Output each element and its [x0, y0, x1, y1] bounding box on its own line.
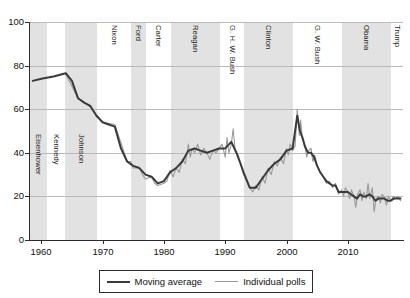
x-tick-label-2000: 2000	[267, 246, 307, 257]
x-tick-2010	[348, 240, 349, 244]
y-tick-0	[25, 240, 29, 241]
x-tick-label-1960: 1960	[21, 246, 61, 257]
legend-swatch-individual-polls	[215, 281, 238, 282]
admin-label-carter: Carter	[154, 25, 162, 47]
x-tick-1980	[164, 240, 165, 244]
legend-swatch-moving-average	[107, 281, 130, 283]
legend-item-individual-polls: Individual polls	[215, 276, 305, 287]
legend-label-individual-polls: Individual polls	[243, 276, 305, 287]
y-tick-40	[25, 153, 29, 154]
admin-label-trump: Trump	[393, 25, 401, 47]
admin-label-nixon: Nixon	[110, 25, 118, 45]
admin-label-eisenhower: Eisenhower	[34, 134, 42, 175]
y-tick-label-80: 80	[0, 60, 24, 71]
series-lines	[29, 22, 403, 240]
legend-item-moving-average: Moving average	[107, 276, 203, 287]
admin-label-ford: Ford	[134, 25, 142, 41]
y-tick-label-100: 100	[0, 16, 24, 27]
y-tick-100	[25, 22, 29, 23]
x-tick-2000	[287, 240, 288, 244]
y-tick-label-20: 20	[0, 190, 24, 201]
legend-label-moving-average: Moving average	[135, 276, 203, 287]
y-tick-label-60: 60	[0, 103, 24, 114]
plot-area: EisenhowerKennedyJohnsonNixonFordCarterR…	[29, 22, 403, 240]
x-tick-label-2010: 2010	[328, 246, 368, 257]
y-tick-20	[25, 196, 29, 197]
y-tick-label-0: 0	[0, 234, 24, 245]
admin-label-reagan: Reagan	[191, 25, 199, 52]
y-tick-label-40: 40	[0, 147, 24, 158]
x-tick-label-1980: 1980	[144, 246, 184, 257]
y-tick-60	[25, 109, 29, 110]
series-moving-average	[33, 73, 401, 201]
admin-label-obama: Obama	[362, 25, 370, 50]
x-tick-label-1970: 1970	[83, 246, 123, 257]
admin-label-clinton: Clinton	[264, 25, 272, 49]
x-tick-label-1990: 1990	[205, 246, 245, 257]
series-individual-polls	[66, 74, 401, 211]
trust-in-government-chart: EisenhowerKennedyJohnsonNixonFordCarterR…	[0, 0, 410, 298]
admin-label-g-h-w-bush: G. H. W. Bush	[228, 25, 236, 74]
x-tick-1960	[41, 240, 42, 244]
legend: Moving average Individual polls	[99, 270, 313, 293]
x-tick-1990	[225, 240, 226, 244]
admin-label-kennedy: Kennedy	[52, 134, 60, 165]
admin-label-johnson: Johnson	[77, 134, 85, 163]
admin-label-g-w-bush: G. W. Bush	[313, 25, 321, 64]
y-axis	[29, 22, 30, 241]
y-tick-80	[25, 66, 29, 67]
x-tick-1970	[103, 240, 104, 244]
